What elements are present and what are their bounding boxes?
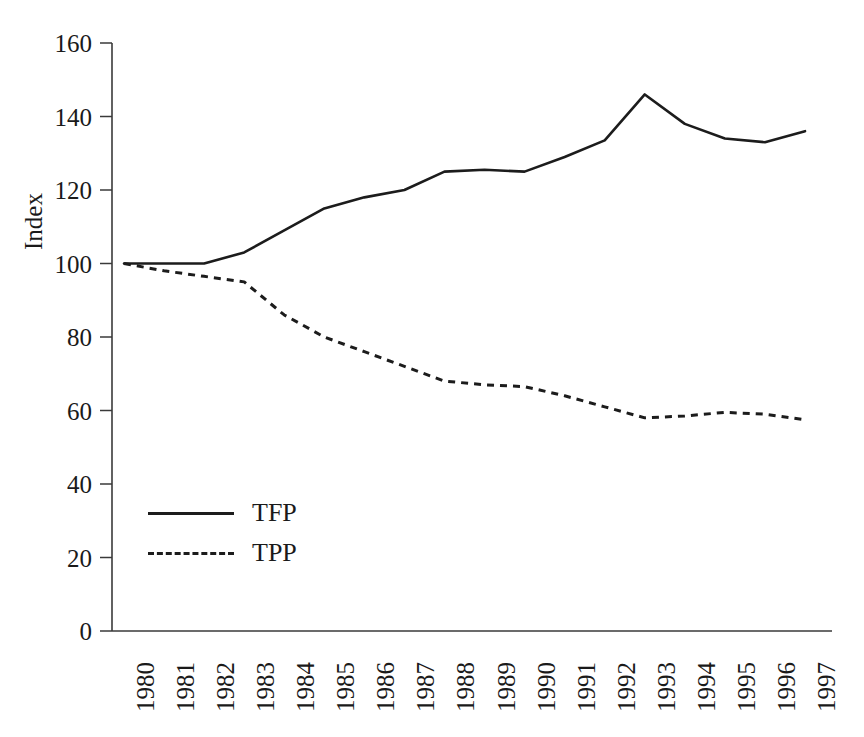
- plot-area: [0, 0, 864, 737]
- legend-label-tpp: TPP: [252, 535, 297, 571]
- legend-swatch-solid-line: [148, 512, 234, 515]
- legend-label-tfp: TFP: [252, 495, 297, 531]
- legend-item-tfp: TFP: [148, 495, 378, 535]
- legend-item-tpp: TPP: [148, 535, 378, 575]
- series-line-tfp: [124, 94, 805, 263]
- y-axis-ticks: [100, 43, 112, 631]
- legend-swatch-dashed-line: [148, 552, 234, 555]
- chart-legend: TFP TPP: [148, 495, 378, 575]
- series-line-tpp: [124, 264, 805, 420]
- chart-figure: Index 020406080100120140160 198019811982…: [0, 0, 864, 737]
